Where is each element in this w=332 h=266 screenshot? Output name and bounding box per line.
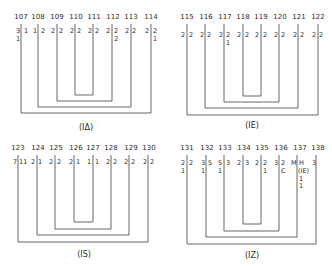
node-number: 112 <box>106 13 119 21</box>
left-value: 2 <box>70 27 74 35</box>
right-value: 2 <box>263 31 267 39</box>
left-value: 3 <box>16 27 20 35</box>
node-number: 113 <box>124 13 137 21</box>
panel-caption: (IΔ) <box>79 123 93 132</box>
right-value: 2 <box>319 31 323 39</box>
node-number: 130 <box>142 144 155 152</box>
right-value: 2 <box>77 27 81 35</box>
left-value: 1 <box>33 27 37 35</box>
node-number: 108 <box>31 13 44 21</box>
panel-3-nested-loops <box>18 155 148 242</box>
right-value: 2 <box>150 158 154 166</box>
right-value: 2 <box>207 31 211 39</box>
node-number: 107 <box>14 13 27 21</box>
loop-outer <box>21 24 151 113</box>
left-value: 2 <box>219 31 223 39</box>
left-value: 2 <box>255 31 259 39</box>
node-number: 126 <box>69 144 83 152</box>
left-value: 2 <box>312 31 316 39</box>
left-value: 1 <box>87 158 91 166</box>
left-value: 2 <box>200 31 204 39</box>
right-value: 2 <box>189 31 193 39</box>
right-value: 2 <box>263 159 267 167</box>
panel-4: 131 132 133 134 135 136 137 138 2 1 2 3 … <box>180 144 324 260</box>
diagram-canvas: 107 108 109 110 111 112 113 114 3 1 1 1 … <box>0 0 332 266</box>
panel-1: 107 108 109 110 111 112 113 114 3 1 1 1 … <box>14 13 158 132</box>
right-value: 3 <box>245 159 249 167</box>
right-value: 5 <box>208 159 212 167</box>
left-value: 2 <box>88 27 92 35</box>
left-value: 2 <box>255 159 259 167</box>
left-value: 2 <box>106 27 110 35</box>
right-value: 1 <box>153 35 157 43</box>
panel-2: 115 116 117 118 119 120 121 122 2 2 2 2 … <box>180 13 324 130</box>
node-number: 127 <box>86 144 99 152</box>
left-value: 2 <box>181 159 185 167</box>
left-value: 3 <box>312 159 316 167</box>
left-value: 2 <box>237 31 241 39</box>
right-value: 2 <box>300 31 304 39</box>
right-value: 2 <box>132 27 136 35</box>
left-value: 5 <box>218 159 222 167</box>
panel-caption: (IS) <box>77 250 91 259</box>
left-value: 2 <box>125 27 129 35</box>
node-number: 125 <box>49 144 62 152</box>
loop-3 <box>37 155 129 235</box>
left-value: 2 <box>49 158 53 166</box>
right-value: 2 <box>57 158 61 166</box>
panel-1-numbers: 107 108 109 110 111 112 113 114 <box>14 13 158 21</box>
right-value: 1 <box>76 158 80 166</box>
node-number: 120 <box>273 13 286 21</box>
node-number: 119 <box>254 13 267 21</box>
node-number: 123 <box>11 144 24 152</box>
node-number: 128 <box>104 144 117 152</box>
node-number: 114 <box>144 13 158 21</box>
loop-2 <box>55 155 111 229</box>
panel-1-values: 3 1 1 1 2 2 2 2 2 2 2 2 2 2 2 2 2 2 1 <box>16 27 157 43</box>
node-number: 111 <box>87 13 100 21</box>
right-value: 1 <box>38 158 42 166</box>
left-value: 1 <box>218 167 222 175</box>
loop-2 <box>224 24 279 102</box>
node-number: 122 <box>311 13 324 21</box>
left-value: 2 <box>145 27 149 35</box>
right-value: 1 <box>95 158 99 166</box>
right-value: 1 <box>226 39 230 47</box>
left-value: 2 <box>237 159 241 167</box>
right-value: 2 <box>131 158 135 166</box>
panel-4-values: 2 1 2 3 1 5 5 1 3 2 3 2 2 1 3 2 C M H (I… <box>181 159 316 190</box>
right-value: 2 <box>113 158 117 166</box>
left-value: 2 <box>106 158 110 166</box>
right-value: 1 <box>299 182 303 190</box>
node-number: 134 <box>237 144 251 152</box>
panel-3: 123 124 125 126 127 128 129 130 7 11 2 1… <box>11 144 155 259</box>
node-number: 110 <box>69 13 82 21</box>
left-value: 1 <box>16 35 20 43</box>
panel-3-numbers: 123 124 125 126 127 128 129 130 <box>11 144 155 152</box>
node-number: 115 <box>180 13 193 21</box>
panel-4-nested-loops <box>187 155 316 244</box>
left-value: 1 <box>181 167 185 175</box>
right-value: 2 <box>114 35 118 43</box>
right-value: (IE) <box>298 167 309 175</box>
left-value: 1 <box>201 167 205 175</box>
node-number: 137 <box>293 144 306 152</box>
left-value: 2 <box>181 31 185 39</box>
left-value: 3 <box>201 159 205 167</box>
node-number: 116 <box>199 13 213 21</box>
right-value: H <box>299 159 304 167</box>
right-value: 2 <box>245 31 249 39</box>
node-number: 138 <box>311 144 324 152</box>
left-value: 2 <box>31 158 35 166</box>
right-value: 2 <box>281 31 285 39</box>
node-number: 131 <box>180 144 193 152</box>
node-number: 132 <box>200 144 213 152</box>
panel-1-nested-loops <box>21 24 151 113</box>
right-value: 2 <box>95 27 99 35</box>
node-number: 136 <box>274 144 288 152</box>
right-value: 2 <box>59 27 63 35</box>
right-value: 2 <box>189 159 193 167</box>
panel-2-values: 2 2 2 2 2 2 1 2 2 2 2 2 2 2 2 2 2 <box>181 31 323 47</box>
panel-caption: (IZ) <box>245 251 259 260</box>
left-value: 2 <box>69 158 73 166</box>
